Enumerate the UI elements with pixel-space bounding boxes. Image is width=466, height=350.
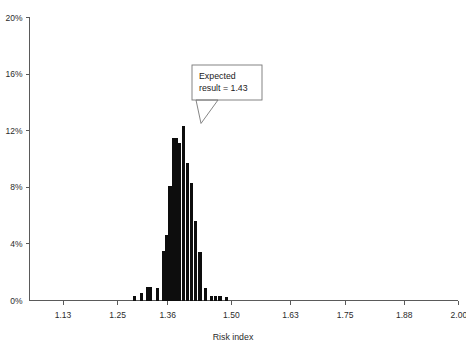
y-axis: 0%4%8%12%16%20% <box>5 13 29 306</box>
histogram-bar <box>146 287 149 300</box>
histogram-bar <box>165 235 168 300</box>
histogram-bar <box>225 297 228 301</box>
histogram-bar <box>214 296 217 300</box>
histogram-bar <box>133 296 136 301</box>
histogram-bar <box>178 143 181 300</box>
histogram-bar <box>156 288 159 300</box>
x-tick-label: 1.75 <box>337 310 354 320</box>
y-tick-label: 0% <box>10 296 23 306</box>
x-tick-label: 1.63 <box>282 310 299 320</box>
x-axis-title: Risk index <box>213 332 254 342</box>
x-tick-label: 1.25 <box>109 310 126 320</box>
y-tick-label: 8% <box>10 182 23 192</box>
histogram-bar <box>182 126 185 300</box>
x-tick-label: 1.13 <box>55 310 72 320</box>
histogram-bars <box>133 126 228 300</box>
histogram-bar <box>186 163 189 300</box>
y-tick-label: 16% <box>5 69 22 79</box>
histogram-bar <box>210 296 213 301</box>
histogram-bar <box>198 252 201 300</box>
histogram-bar <box>140 293 143 301</box>
histogram-bar <box>190 183 193 300</box>
histogram-bar <box>194 221 197 300</box>
y-tick-label: 4% <box>10 239 23 249</box>
histogram-chart: 0%4%8%12%16%20% 1.131.251.361.501.631.75… <box>0 0 466 350</box>
x-axis: 1.131.251.361.501.631.751.882.00 <box>30 301 466 320</box>
histogram-bar <box>162 251 165 301</box>
y-tick-label: 12% <box>5 126 22 136</box>
chart-canvas: 0%4%8%12%16%20% 1.131.251.361.501.631.75… <box>0 0 466 350</box>
histogram-bar <box>149 287 152 300</box>
histogram-bar <box>172 138 175 301</box>
chart-annotations: Expectedresult = 1.43 <box>192 65 262 123</box>
x-tick-label: 1.50 <box>223 310 240 320</box>
x-tick-label: 1.36 <box>159 310 176 320</box>
histogram-bar <box>218 296 221 300</box>
callout-leader-line <box>196 100 218 123</box>
x-tick-label: 2.00 <box>451 310 466 320</box>
histogram-bar <box>175 138 178 301</box>
x-tick-label: 1.88 <box>396 310 413 320</box>
callout-line-1: Expected <box>199 71 236 81</box>
histogram-bar <box>204 288 207 301</box>
histogram-bar <box>168 186 171 301</box>
y-tick-label: 20% <box>5 13 22 23</box>
callout-line-2: result = 1.43 <box>199 83 248 93</box>
